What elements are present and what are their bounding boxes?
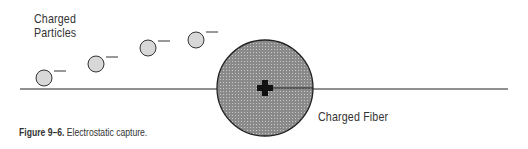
caption-text: Electrostatic capture. xyxy=(67,126,147,138)
electrostatic-capture-diagram: Charged Particles Charged Fiber Figure 9… xyxy=(0,0,528,149)
label-line-2: Particles xyxy=(34,26,100,40)
charged-particle xyxy=(88,56,118,72)
charged-particle xyxy=(140,40,170,56)
figure-number: Figure 9–6. xyxy=(19,126,64,138)
charged-fiber xyxy=(217,40,313,136)
charged-particle xyxy=(188,32,218,48)
charged-particles-label: Charged Particles xyxy=(34,12,100,40)
charged-particle xyxy=(36,70,66,86)
charged-fiber-label: Charged Fiber xyxy=(318,110,388,124)
label-line-1: Charged xyxy=(34,12,100,26)
figure-caption: Figure 9–6. Electrostatic capture. xyxy=(19,126,147,138)
